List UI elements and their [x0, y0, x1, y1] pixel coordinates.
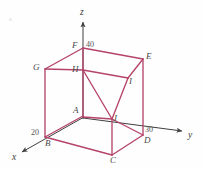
coordinate-diagram-svg [0, 0, 205, 169]
edge-A-B [45, 116, 83, 137]
edge-B-C [45, 137, 112, 155]
edge-C-D [112, 135, 143, 155]
edge-F-E [83, 48, 143, 59]
y-tick-label-30: 30 [145, 126, 153, 134]
axis-group [22, 22, 182, 152]
vertex-label-C: C [110, 156, 116, 165]
edge-H-I [83, 70, 128, 78]
y-axis-label: y [188, 131, 192, 141]
box-edges-group [45, 48, 143, 155]
vertex-label-H: H [72, 65, 79, 74]
vertex-label-I: I [129, 77, 132, 86]
x-axis-label: x [12, 153, 16, 163]
vertex-label-G: G [33, 63, 40, 72]
x-tick-label-20: 20 [31, 129, 39, 137]
vertex-label-D: D [144, 136, 151, 145]
vertex-label-E: E [146, 52, 152, 61]
vertex-label-A: A [73, 106, 79, 115]
figure-canvas: F E G H I A J B C D 40 20 30 z y x [0, 0, 205, 169]
triangle-edge-H-J [83, 70, 112, 119]
z-tick-label-40: 40 [86, 41, 94, 49]
vertex-label-J: J [113, 114, 117, 123]
vertex-label-F: F [72, 41, 78, 50]
z-axis-label: z [80, 8, 84, 18]
vertex-label-B: B [45, 139, 51, 148]
